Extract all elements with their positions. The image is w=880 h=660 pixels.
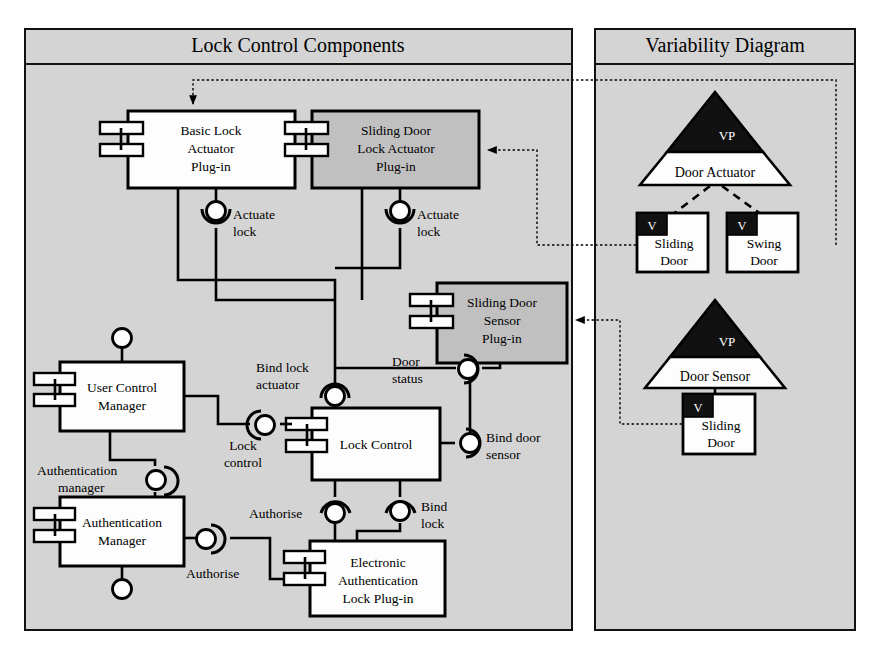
lollipop-authentication-manager-bottom[interactable] [113,580,132,599]
component-label: Plug-in [191,159,231,174]
connector-label: Door [392,354,420,369]
connector-label: Actuate [417,207,459,222]
connector-label: Bind [421,499,448,514]
connector-label: status [392,371,423,386]
ball-icon [147,471,166,490]
variant-tag-label: V [693,401,702,415]
component-label: Lock Plug-in [343,591,414,606]
connector-label: manager [58,480,105,495]
connector-label: Actuate [233,207,275,222]
component-label: Lock Control [340,437,413,452]
component-label: Basic Lock [180,123,241,138]
component-label: Manager [98,398,146,413]
connector-label: lock [417,224,440,239]
connector-label: control [224,455,262,470]
variant-label: Door [660,253,688,268]
variant-tag-label: V [647,219,656,233]
component-label: Authentication [82,515,162,530]
ball-icon [459,360,478,379]
component-label: Manager [98,533,146,548]
variant-sliding-door-sensor[interactable]: V Sliding Door [683,394,755,454]
panel-lock-control-title: Lock Control Components [191,34,405,57]
variant-label: Sliding [701,418,740,433]
component-label: User Control [87,380,157,395]
vp-tag-label: VP [719,128,736,143]
component-label: Sliding Door [467,295,538,310]
ball-icon [461,434,480,453]
connector-label: Authentication [37,463,117,478]
component-sliding-door-lock-actuator[interactable]: Sliding Door Lock Actuator Plug-in [285,111,479,188]
ball-icon [391,202,410,221]
component-variability-diagram: Lock Control Components Basic Lock Actua… [0,0,880,660]
ball-icon [197,530,216,549]
connector-label: Lock [229,438,257,453]
lollipop-user-control-manager-top[interactable] [113,329,132,348]
component-label: Electronic [350,555,405,570]
variant-label: Door [750,253,778,268]
diagram-canvas: Lock Control Components Basic Lock Actua… [0,0,880,660]
connector-label: Authorise [249,506,302,521]
variant-tag-label: V [737,219,746,233]
component-label: Authentication [338,573,418,588]
panel-variability-title: Variability Diagram [645,34,805,57]
connector-label: actuator [256,377,300,392]
connector-label: Authorise [186,566,239,581]
connector-label: Bind lock [256,360,309,375]
component-label: Plug-in [482,331,522,346]
ball-icon [326,387,345,406]
connector-label: lock [233,224,256,239]
connector-label: Bind door [486,430,541,445]
variant-swing-door-actuator[interactable]: V Swing Door [727,213,798,272]
component-basic-lock-actuator[interactable]: Basic Lock Actuator Plug-in [100,111,295,188]
component-label: Lock Actuator [357,141,435,156]
vp-name-label: Door Actuator [675,165,756,180]
vp-name-label: Door Sensor [680,369,751,384]
ball-icon [256,416,275,435]
variant-label: Sliding [654,236,693,251]
connector-label: lock [421,516,444,531]
variant-sliding-door-actuator[interactable]: V Sliding Door [637,213,708,272]
component-label: Sliding Door [361,123,432,138]
connector-label: sensor [486,447,521,462]
ball-icon [207,202,226,221]
ball-icon [326,504,345,523]
component-label: Sensor [484,313,521,328]
component-label: Plug-in [376,159,416,174]
component-label: Actuator [187,141,235,156]
vp-tag-label: VP [719,334,736,349]
variant-label: Swing [747,236,782,251]
variant-label: Door [707,435,735,450]
ball-icon [391,502,410,521]
